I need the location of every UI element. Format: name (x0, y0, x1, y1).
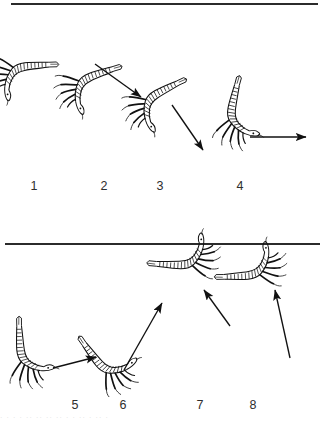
arrow-7 (204, 290, 230, 326)
cropped-caption-strip: · · · · ·· ·· ·· ·· · · ·· · ·· · (0, 414, 325, 423)
arrow-6 (124, 303, 162, 370)
divider-top-rule (11, 3, 318, 5)
organism-3 (118, 77, 200, 144)
panel-label-7: 7 (193, 399, 207, 412)
arrow-2 (95, 64, 141, 97)
arrow-5 (53, 357, 96, 368)
organism-4 (211, 75, 282, 159)
organism-5 (9, 316, 64, 392)
figure-root: 1 2 3 4 5 6 7 8 · · · · ·· ·· ·· ·· · · … (0, 0, 325, 423)
panel-label-4: 4 (233, 180, 247, 193)
divider-middle-rule (5, 243, 320, 245)
panel-label-1: 1 (27, 180, 41, 193)
organism-8 (214, 232, 290, 287)
panel-label-3: 3 (153, 180, 167, 193)
organism-drawing-layer (0, 0, 325, 423)
organism-2 (52, 64, 130, 123)
organism-6 (77, 315, 153, 400)
panel-label-2: 2 (97, 180, 111, 193)
panel-label-8: 8 (246, 399, 260, 412)
organism-1 (0, 56, 59, 110)
arrow-8 (275, 290, 290, 358)
organism-7 (146, 218, 225, 279)
panel-label-6: 6 (116, 399, 130, 412)
panel-label-5: 5 (68, 399, 82, 412)
arrow-3 (172, 105, 203, 150)
